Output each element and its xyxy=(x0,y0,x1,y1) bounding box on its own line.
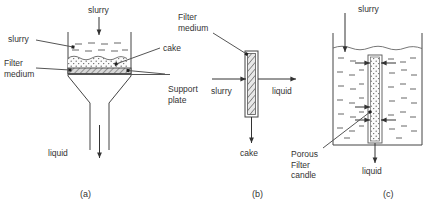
panel-b-slurry-label: slurry xyxy=(211,86,232,97)
panel-c-caption: (c) xyxy=(383,189,394,199)
panel-b-caption: (b) xyxy=(252,189,263,199)
panel-c-slurry-feed-label: slurry xyxy=(358,4,379,15)
panel-c-porous-filter-candle-label: Porous Filter candle xyxy=(291,149,318,181)
panel-a-support-plate-label: Support plate xyxy=(168,84,198,105)
panel-a-filter-medium-label: Filter medium xyxy=(4,58,34,79)
panel-a-caption: (a) xyxy=(80,189,91,199)
panel-a-drawing xyxy=(36,17,170,158)
panel-a-cake-label: cake xyxy=(163,43,181,54)
panel-c-drawing xyxy=(323,13,422,163)
filtration-figure: slurry slurry Filter medium cake Support… xyxy=(0,0,430,212)
panel-a-slurry-feed-label: slurry xyxy=(88,5,109,16)
figure-drawing xyxy=(0,0,430,212)
panel-b-liquid-label: liquid xyxy=(272,86,292,97)
panel-a-slurry-label: slurry xyxy=(8,34,29,45)
panel-a-liquid-outlet-label: liquid xyxy=(48,148,68,159)
panel-c-liquid-outlet-label: liquid xyxy=(362,166,382,177)
panel-b-filter-medium-label: Filter medium xyxy=(178,12,208,33)
panel-b-cake-label: cake xyxy=(240,148,258,159)
